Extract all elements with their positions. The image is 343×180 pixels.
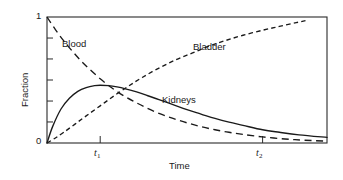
plot-frame-rect [47,17,327,143]
y-axis-tick-label-top: 1 [36,11,41,21]
x-axis-tick-label-t1: t1 [94,148,100,158]
chart-figure: 1 0 Fraction t1 t2 Time Blood Bladder Ki… [0,0,343,180]
x-axis-ticks [100,136,262,143]
plot-frame [47,17,327,143]
curve-label-bladder: Bladder [193,42,226,52]
x-axis-title: Time [169,161,190,171]
x-axis-tick-t2-subscript: 2 [259,152,263,160]
y-axis-tick-label-bottom: 0 [36,136,41,146]
plot-canvas [0,0,343,180]
curve-label-blood: Blood [62,39,86,49]
curve-label-kidneys: Kidneys [162,95,196,105]
y-axis-title: Fraction [20,73,30,107]
curve-blood [47,17,327,141]
y-axis-ticks [47,38,53,122]
x-axis-tick-t1-subscript: 1 [97,152,101,160]
x-axis-tick-label-t2: t2 [256,148,262,158]
